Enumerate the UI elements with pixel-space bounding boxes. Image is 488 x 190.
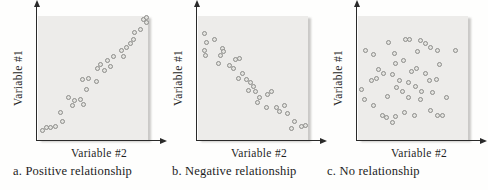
- data-point: [401, 58, 406, 63]
- data-point: [66, 95, 71, 100]
- data-point: [412, 113, 417, 118]
- panel-caption: c. No relationship: [327, 164, 420, 179]
- data-point: [277, 109, 282, 114]
- data-point: [423, 71, 428, 76]
- data-point: [402, 110, 407, 115]
- data-point: [381, 71, 386, 76]
- data-point: [418, 97, 423, 102]
- data-point: [102, 68, 107, 73]
- data-point: [371, 52, 376, 57]
- y-axis-line: [36, 5, 37, 140]
- data-point: [435, 48, 440, 53]
- data-point: [94, 79, 99, 84]
- data-point: [407, 37, 412, 42]
- data-point: [124, 45, 129, 50]
- data-point: [392, 51, 397, 56]
- data-point: [428, 45, 433, 50]
- data-point: [303, 123, 308, 128]
- y-axis-label: Variable #1: [12, 50, 24, 106]
- data-point: [203, 53, 208, 58]
- scatter-panel-positive: Variable #1 Variable #2 a. Positive rela…: [0, 0, 166, 190]
- data-point: [282, 103, 287, 108]
- data-point: [369, 78, 374, 83]
- data-point: [121, 54, 126, 59]
- data-point: [95, 66, 100, 71]
- data-point: [119, 48, 124, 53]
- scatter-panel-negative: Variable #1 Variable #2 b. Negative rela…: [160, 0, 326, 190]
- data-point: [444, 95, 449, 100]
- data-point: [70, 103, 75, 108]
- y-axis-line: [196, 5, 197, 140]
- data-point: [414, 66, 419, 71]
- data-point: [362, 97, 367, 102]
- data-point: [393, 61, 398, 66]
- data-point: [84, 87, 89, 92]
- data-point: [423, 41, 428, 46]
- data-point: [204, 40, 209, 45]
- data-point: [264, 105, 269, 110]
- x-axis-label: Variable #2: [356, 147, 482, 159]
- data-point: [255, 100, 260, 105]
- data-point: [60, 119, 65, 124]
- data-point: [406, 95, 411, 100]
- data-point: [390, 120, 395, 125]
- data-point: [413, 84, 418, 89]
- data-point: [437, 62, 442, 67]
- data-point: [385, 94, 390, 99]
- data-point: [419, 89, 424, 94]
- data-point: [138, 27, 143, 32]
- data-point: [359, 87, 364, 92]
- data-point: [144, 15, 149, 20]
- data-point: [453, 48, 458, 53]
- data-point: [80, 77, 85, 82]
- data-point: [427, 78, 432, 83]
- data-point: [289, 126, 294, 131]
- y-axis-label: Variable #1: [332, 50, 344, 106]
- data-point: [108, 64, 113, 69]
- data-point: [81, 102, 86, 107]
- data-point: [428, 108, 433, 113]
- x-axis-label: Variable #2: [36, 147, 162, 159]
- x-axis-line: [36, 140, 162, 141]
- data-point: [58, 110, 63, 115]
- panel-caption: b. Negative relationship: [172, 164, 297, 179]
- data-point: [374, 76, 379, 81]
- data-point: [144, 20, 149, 25]
- data-point: [430, 90, 435, 95]
- data-point: [132, 30, 137, 35]
- data-point: [218, 53, 223, 58]
- y-axis-label: Variable #1: [172, 50, 184, 106]
- panel-caption: a. Positive relationship: [13, 164, 132, 179]
- data-point: [440, 113, 445, 118]
- data-point: [240, 71, 245, 76]
- scatter-panel-none: Variable #1 Variable #2 c. No relationsh…: [320, 0, 486, 190]
- data-point: [363, 48, 368, 53]
- data-point: [216, 61, 221, 66]
- plot-area: [38, 16, 148, 140]
- data-point: [415, 49, 420, 54]
- y-axis-line: [356, 5, 357, 140]
- data-point: [285, 111, 290, 116]
- data-point: [390, 72, 395, 77]
- data-point: [434, 77, 439, 82]
- x-axis-line: [196, 140, 322, 141]
- data-point: [237, 56, 242, 61]
- data-point: [269, 89, 274, 94]
- x-axis-arrow-icon: [480, 138, 487, 144]
- data-point: [212, 37, 217, 42]
- data-point: [246, 88, 251, 93]
- data-point: [406, 80, 411, 85]
- data-point: [435, 113, 440, 118]
- data-point: [78, 97, 83, 102]
- x-axis-line: [356, 140, 482, 141]
- data-point: [128, 41, 133, 46]
- plot-area: [198, 16, 308, 140]
- data-point: [231, 66, 236, 71]
- plot-area: [358, 16, 468, 140]
- data-point: [371, 103, 376, 108]
- data-point: [202, 31, 207, 36]
- data-point: [236, 76, 241, 81]
- data-point: [384, 115, 389, 120]
- data-point: [40, 128, 45, 133]
- data-point: [394, 85, 399, 90]
